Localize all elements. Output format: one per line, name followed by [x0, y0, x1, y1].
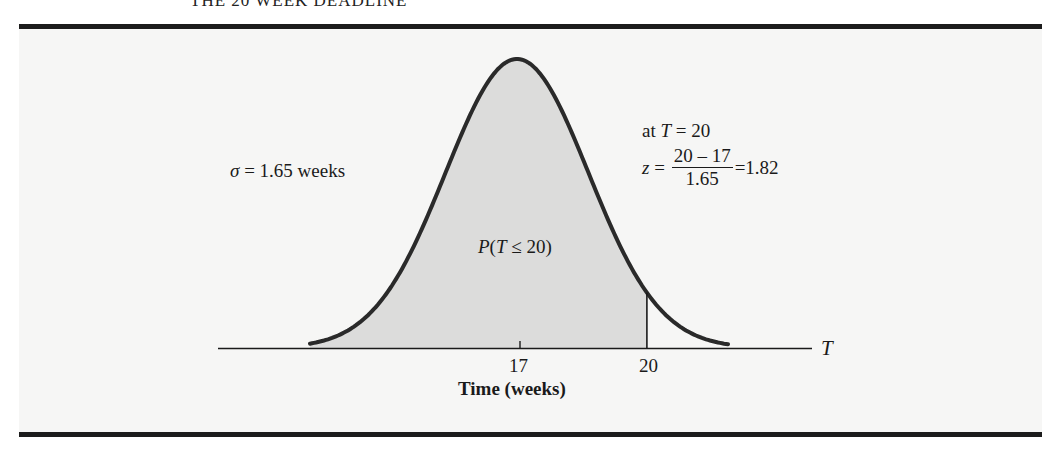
tick-label-17: 17	[509, 355, 528, 377]
prob-p: P	[478, 236, 490, 257]
z-numerator: 20 – 17	[672, 145, 733, 168]
z-fraction: 20 – 17 1.65	[672, 145, 733, 190]
prob-rest: ≤ 20)	[507, 236, 552, 257]
prob-variable: T	[496, 236, 507, 257]
z-result: =1.82	[735, 157, 779, 179]
tick-label-20: 20	[639, 355, 658, 377]
x-axis-title: Time (weeks)	[458, 378, 566, 400]
z-formula: z = 20 – 17 1.65 =1.82	[642, 145, 779, 190]
sigma-annotation: σ = 1.65 weeks	[230, 160, 345, 182]
z-denominator: 1.65	[686, 168, 719, 190]
sigma-symbol: σ	[230, 160, 239, 181]
probability-label: P(T ≤ 20)	[478, 236, 552, 258]
axis-variable-label: T	[821, 336, 833, 361]
at-variable: T	[660, 120, 671, 141]
at-prefix: at	[642, 120, 660, 141]
at-value: = 20	[671, 120, 710, 141]
at-t-annotation: at T = 20	[642, 120, 710, 142]
sigma-value: = 1.65 weeks	[239, 160, 345, 181]
z-variable: z	[642, 157, 649, 179]
z-equals: =	[649, 157, 669, 179]
